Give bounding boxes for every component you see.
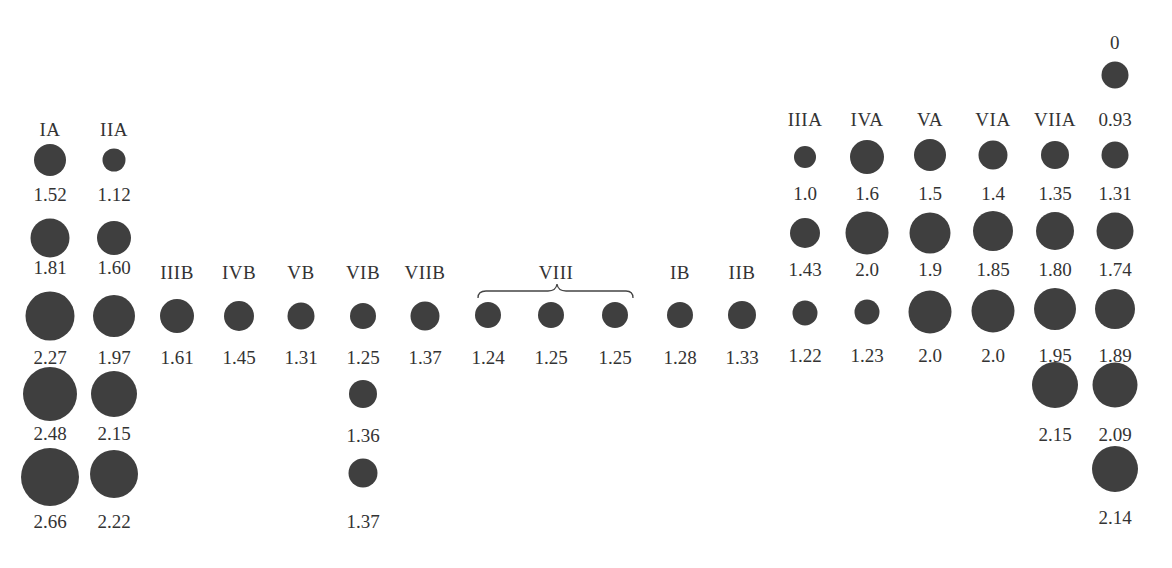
radius-value: 1.22 — [788, 346, 821, 366]
atom-circle — [728, 301, 756, 329]
radius-value: 2.0 — [981, 346, 1005, 366]
radius-value: 1.9 — [918, 260, 942, 280]
radius-value: 1.25 — [346, 348, 379, 368]
group-label: 0 — [1110, 33, 1120, 53]
group-label: VIIA — [1034, 110, 1076, 130]
group-label: IB — [670, 263, 690, 283]
group-label: VIA — [975, 110, 1010, 130]
group-label: IVB — [222, 263, 256, 283]
atom-circle — [667, 302, 693, 328]
atom-circle — [91, 371, 137, 417]
atom-circle — [1032, 362, 1078, 408]
atom-circle — [1095, 289, 1135, 329]
radius-value: 1.85 — [976, 260, 1009, 280]
atom-circle — [26, 292, 75, 341]
atom-circle — [97, 221, 131, 255]
radius-value: 2.0 — [855, 260, 879, 280]
group-label: VIIB — [404, 263, 445, 283]
radius-value: 2.22 — [97, 512, 130, 532]
atom-circle — [90, 450, 138, 498]
radius-value: 1.4 — [981, 184, 1005, 204]
atom-circle — [349, 380, 377, 408]
group-label: VB — [287, 263, 314, 283]
radius-value: 1.43 — [788, 260, 821, 280]
radius-value: 1.23 — [850, 346, 883, 366]
radius-value: 1.12 — [97, 185, 130, 205]
atom-circle — [34, 144, 66, 176]
atom-circle — [1093, 363, 1138, 408]
atom-circle — [794, 146, 816, 168]
radius-value: 2.15 — [97, 424, 130, 444]
radius-value: 0.93 — [1098, 110, 1131, 130]
radius-value: 1.0 — [793, 184, 817, 204]
atom-circle — [288, 303, 315, 330]
radius-value: 1.37 — [346, 512, 379, 532]
atom-circle — [972, 290, 1015, 333]
radius-value: 1.52 — [33, 185, 66, 205]
radius-value: 1.24 — [471, 348, 504, 368]
atom-circle — [1092, 446, 1138, 492]
atom-circle — [979, 141, 1008, 170]
radius-value: 1.45 — [222, 348, 255, 368]
atom-circle — [103, 149, 126, 172]
group-label: IIA — [100, 120, 128, 140]
group-label: IIB — [729, 263, 756, 283]
atom-circle — [790, 218, 820, 248]
radius-value: 1.74 — [1098, 260, 1131, 280]
atom-circle — [1102, 62, 1129, 89]
atom-circle — [31, 219, 70, 258]
group-label: IA — [39, 120, 60, 140]
group-label: VA — [917, 110, 943, 130]
radius-value: 2.14 — [1098, 508, 1131, 528]
radius-value: 2.15 — [1038, 425, 1071, 445]
atom-circle — [973, 211, 1013, 251]
radius-value: 1.25 — [598, 348, 631, 368]
atom-circle — [411, 302, 440, 331]
atom-circle — [1102, 142, 1129, 169]
periodic-radius-diagram: VIII IA1.521.812.272.482.66IIA1.121.601.… — [0, 0, 1172, 568]
atom-circle — [1034, 288, 1076, 330]
atom-circle — [846, 212, 889, 255]
atom-circle — [349, 459, 378, 488]
radius-value: 1.35 — [1038, 184, 1071, 204]
radius-value: 2.66 — [33, 512, 66, 532]
group-label: IVA — [851, 110, 884, 130]
radius-value: 1.60 — [97, 258, 130, 278]
atom-circle — [23, 367, 77, 421]
atom-circle — [538, 302, 564, 328]
radius-value: 1.61 — [160, 348, 193, 368]
radius-value: 1.36 — [346, 426, 379, 446]
atom-circle — [850, 140, 884, 174]
atom-circle — [350, 303, 376, 329]
atom-circle — [1041, 141, 1069, 169]
radius-value: 1.25 — [534, 348, 567, 368]
group-label: VIB — [346, 263, 380, 283]
radius-value: 1.81 — [33, 258, 66, 278]
group-viii-label: VIII — [539, 263, 574, 283]
atom-circle — [602, 302, 628, 328]
atom-circle — [160, 299, 194, 333]
radius-value: 1.28 — [663, 348, 696, 368]
radius-value: 1.31 — [1098, 184, 1131, 204]
radius-value: 1.37 — [408, 348, 441, 368]
radius-value: 2.0 — [918, 346, 942, 366]
radius-value: 1.97 — [97, 348, 130, 368]
radius-value: 1.33 — [725, 348, 758, 368]
atom-circle — [793, 301, 818, 326]
radius-value: 1.31 — [284, 348, 317, 368]
atom-circle — [909, 291, 952, 334]
group-label: IIIB — [160, 263, 194, 283]
radius-value: 2.09 — [1098, 425, 1131, 445]
radius-value: 1.6 — [855, 184, 879, 204]
atom-circle — [21, 448, 79, 506]
atom-circle — [1097, 213, 1134, 250]
atom-circle — [475, 302, 501, 328]
atom-circle — [855, 300, 880, 325]
atom-circle — [224, 301, 254, 331]
group-viii-brace — [0, 0, 1172, 568]
radius-value: 1.5 — [918, 184, 942, 204]
radius-value: 2.27 — [33, 348, 66, 368]
radius-value: 1.80 — [1038, 260, 1071, 280]
group-label: IIIA — [788, 110, 823, 130]
atom-circle — [914, 139, 946, 171]
